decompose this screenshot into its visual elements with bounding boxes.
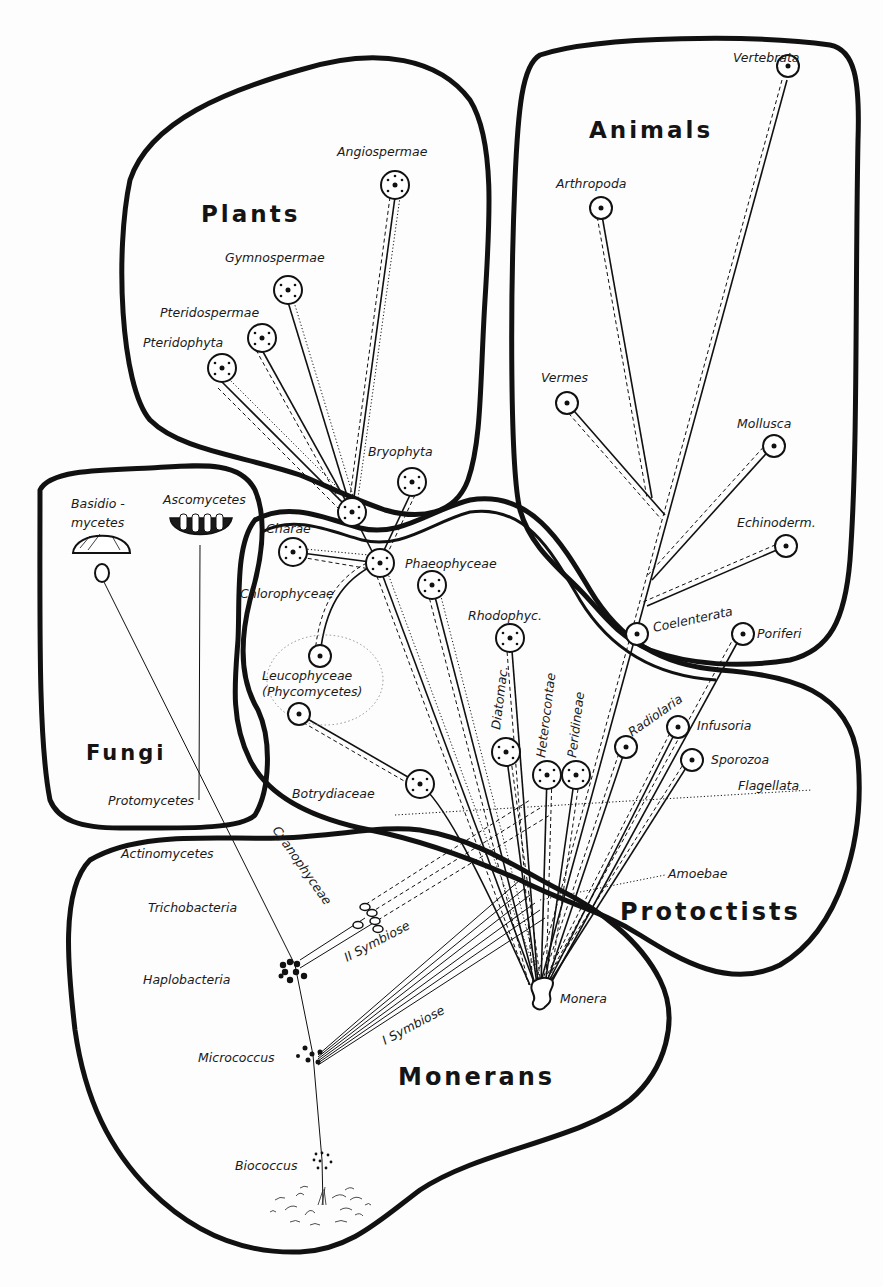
- diagram-svg: Plants Animals Fungi Protoctists Moneran…: [0, 0, 883, 1287]
- monerans-boundary: [68, 829, 668, 1252]
- node-sporozoa: [681, 749, 703, 771]
- label-bryophyta: Bryophyta: [368, 444, 433, 459]
- node-vermes: [556, 392, 578, 414]
- node-arthropoda: [590, 197, 612, 219]
- node-peridineae: [562, 761, 590, 789]
- label-chlorophyceae: Chlorophyceae: [240, 586, 334, 601]
- node-diatomaceae: [492, 738, 520, 766]
- label-biococcus: Biococcus: [235, 1158, 298, 1173]
- plants-boundary: [122, 58, 489, 515]
- monera-amoeba-icon: [531, 978, 553, 1009]
- label-sporozoa: Sporozoa: [711, 752, 769, 767]
- label-actinomycetes: Actinomycetes: [120, 846, 214, 861]
- label-monera: Monera: [560, 991, 607, 1006]
- kingdom-label-protoctists: Protoctists: [620, 898, 801, 926]
- label-peridineae: Peridineae: [564, 691, 587, 759]
- ascomycete-cup-icon: [170, 514, 232, 535]
- node-plant-root: [338, 498, 366, 526]
- fungi-moneran-branches: [103, 545, 550, 1205]
- label-phaeophyceae: Phaeophyceae: [405, 556, 497, 571]
- node-pteridophyta: [208, 354, 236, 382]
- node-poriferi: [732, 623, 754, 645]
- animal-branches: [535, 80, 787, 985]
- label-leucophyceae: Leucophyceae: [262, 668, 353, 683]
- label-amoebae: Amoebae: [667, 866, 728, 881]
- node-coelenterata: [626, 623, 648, 645]
- node-rhodophyceae: [496, 624, 524, 652]
- kingdom-label-animals: Animals: [589, 117, 713, 143]
- label-diatomaceae: Diatomac.: [488, 665, 511, 730]
- label-infusoria: Infusoria: [697, 718, 751, 733]
- label-coelenterata: Coelenterata: [652, 603, 734, 635]
- label-gymnospermae: Gymnospermae: [225, 250, 325, 265]
- node-gymnospermae: [274, 276, 302, 304]
- label-angiospermae: Angiospermae: [336, 144, 428, 159]
- label-botrydiaceae: Botrydiaceae: [292, 786, 375, 801]
- node-chlorophyceae: [366, 549, 394, 577]
- node-botrydiaceae: [406, 770, 434, 798]
- kingdom-label-fungi: Fungi: [86, 741, 166, 765]
- label-echinoderm: Echinoderm.: [737, 515, 816, 530]
- node-charae: [279, 538, 307, 566]
- node-bryophyta: [398, 468, 426, 496]
- label-rhodophyceae: Rhodophyc.: [468, 608, 542, 623]
- label-arthropoda: Arthropoda: [555, 176, 626, 191]
- node-pteridospermae: [248, 324, 276, 352]
- primordial-origin-scribble-icon: [270, 1186, 371, 1225]
- label-charae: Charae: [266, 521, 311, 536]
- mushroom-icon: [73, 534, 130, 582]
- label-pteridophyta: Pteridophyta: [143, 335, 223, 350]
- phylogenetic-tree-diagram: Plants Animals Fungi Protoctists Moneran…: [0, 0, 883, 1287]
- label-vermes: Vermes: [541, 370, 589, 385]
- label-poriferi: Poriferi: [757, 626, 802, 641]
- node-mollusca: [763, 435, 785, 457]
- kingdom-label-monerans: Monerans: [398, 1063, 555, 1091]
- node-phycomycetes: [288, 703, 310, 725]
- label-ascomycetes: Ascomycetes: [162, 492, 246, 507]
- node-phaeophyceae: [418, 571, 446, 599]
- haplobacteria-cluster-icon: [279, 959, 308, 983]
- kingdom-label-plants: Plants: [201, 201, 300, 227]
- label-protomycetes: Protomycetes: [108, 793, 195, 808]
- label-mollusca: Mollusca: [737, 416, 791, 431]
- node-echinoderm: [775, 535, 797, 557]
- node-angiospermae: [381, 171, 409, 199]
- node-leucophyceae: [309, 645, 331, 667]
- label-flagellata: Flagellata: [738, 778, 799, 793]
- label-haplobacteria: Haplobacteria: [143, 972, 230, 987]
- label-pteridospermae: Pteridospermae: [160, 305, 259, 320]
- label-heterocontae: Heterocontae: [533, 672, 558, 759]
- node-heterocontae: [533, 761, 561, 789]
- label-trichobacteria: Trichobacteria: [148, 900, 237, 915]
- label-phycomycetes: (Phycomycetes): [262, 684, 362, 699]
- label-vertebrata: Vertebrata: [733, 50, 800, 65]
- label-basidiomycetes-line1: Basidio -: [71, 496, 125, 511]
- label-basidiomycetes-line2: mycetes: [71, 515, 125, 530]
- label-micrococcus: Micrococcus: [198, 1050, 275, 1065]
- node-infusoria: [667, 716, 689, 738]
